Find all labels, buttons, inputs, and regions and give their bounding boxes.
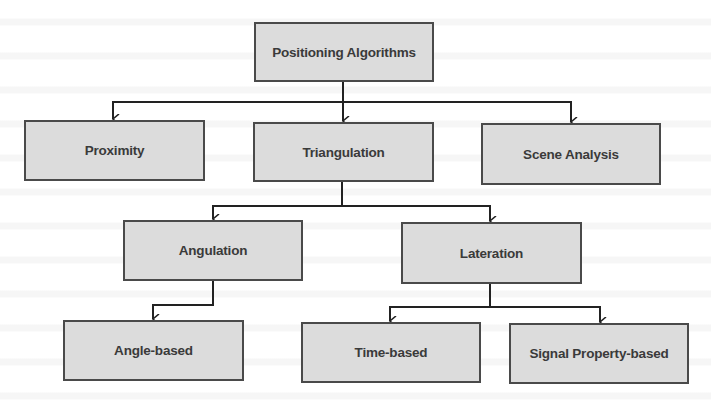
node-proximity: Proximity	[24, 120, 205, 181]
node-angulation: Angulation	[123, 220, 303, 281]
node-label: Time-based	[355, 345, 428, 360]
positioning-algorithms-diagram: Positioning Algorithms Proximity Triangu…	[0, 0, 711, 407]
node-label: Angulation	[179, 243, 248, 258]
connector-to-angle-based	[153, 281, 213, 319]
node-lateration: Lateration	[401, 222, 582, 284]
node-label: Positioning Algorithms	[272, 45, 416, 60]
node-label: Proximity	[85, 143, 145, 158]
node-positioning-algorithms: Positioning Algorithms	[254, 22, 434, 82]
node-label: Signal Property-based	[529, 346, 668, 361]
node-label: Angle-based	[114, 343, 193, 358]
node-label: Triangulation	[302, 145, 384, 160]
node-time-based: Time-based	[301, 322, 481, 383]
node-signal-property-based: Signal Property-based	[509, 323, 689, 384]
node-label: Lateration	[460, 246, 523, 261]
node-angle-based: Angle-based	[63, 320, 244, 381]
node-triangulation: Triangulation	[253, 122, 434, 182]
node-scene-analysis: Scene Analysis	[481, 123, 661, 185]
node-label: Scene Analysis	[523, 147, 619, 162]
